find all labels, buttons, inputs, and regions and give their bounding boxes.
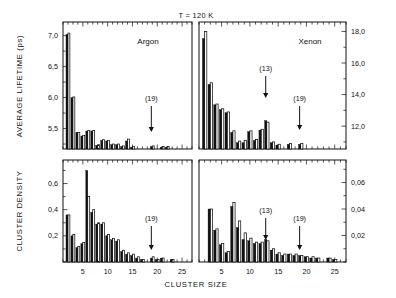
four-panel-bar-chart: 5,56,06,57,0(19)Argon12,014,016,018,0(13… bbox=[0, 0, 396, 298]
bar-filled bbox=[276, 254, 278, 262]
bar-filled bbox=[101, 224, 103, 262]
bar-open bbox=[278, 253, 280, 262]
annotation-arrow-head bbox=[263, 235, 268, 240]
bar-open bbox=[103, 223, 105, 262]
bar-open bbox=[108, 140, 110, 149]
x-tick-label-25: 25 bbox=[178, 267, 186, 276]
bar-open bbox=[93, 210, 95, 262]
bar-open bbox=[113, 144, 115, 149]
bar-open bbox=[267, 241, 269, 262]
bar-open bbox=[152, 146, 154, 149]
bar-filled bbox=[150, 147, 152, 149]
bar-filled bbox=[208, 209, 210, 262]
bar-open bbox=[83, 242, 85, 262]
bar-filled bbox=[116, 241, 118, 262]
panel-title-argon: Argon bbox=[137, 37, 158, 46]
bar-open bbox=[255, 242, 257, 262]
bar-open bbox=[142, 259, 144, 262]
bar-open bbox=[98, 223, 100, 262]
y-tick-label: 0,04 bbox=[351, 205, 365, 214]
bar-open bbox=[132, 147, 134, 149]
annotation-arrow-head bbox=[263, 93, 268, 98]
bar-filled bbox=[231, 132, 233, 149]
bar-filled bbox=[150, 258, 152, 262]
x-tick-label-15: 15 bbox=[274, 267, 282, 276]
bar-filled bbox=[293, 255, 295, 262]
bar-filled bbox=[111, 145, 113, 149]
bar-open bbox=[233, 202, 235, 262]
bar-filled bbox=[71, 98, 73, 149]
bar-filled bbox=[91, 131, 93, 149]
bar-open bbox=[335, 259, 337, 262]
y-tick-label: 0,02 bbox=[351, 231, 365, 240]
y-tick-label: 0,4 bbox=[48, 205, 58, 214]
bar-filled bbox=[219, 110, 221, 149]
bar-open bbox=[306, 257, 308, 262]
bar-filled bbox=[242, 143, 244, 149]
bar-filled bbox=[310, 258, 312, 262]
bar-filled bbox=[315, 258, 317, 262]
bar-open bbox=[227, 112, 229, 149]
bar-open bbox=[73, 97, 75, 149]
bar-filled bbox=[76, 132, 78, 149]
bar-filled bbox=[282, 255, 284, 262]
bar-open bbox=[162, 147, 164, 149]
bar-open bbox=[255, 140, 257, 149]
panel-top-right: 12,014,016,018,0(13)(19)Xenon bbox=[199, 22, 365, 149]
bar-open bbox=[261, 129, 263, 149]
bar-filled bbox=[121, 252, 123, 262]
figure-container: 5,56,06,57,0(19)Argon12,014,016,018,0(13… bbox=[0, 0, 396, 298]
bar-filled bbox=[160, 258, 162, 262]
bar-open bbox=[78, 246, 80, 262]
bar-filled bbox=[276, 145, 278, 149]
bar-open bbox=[137, 257, 139, 262]
bar-filled bbox=[219, 245, 221, 262]
bar-filled bbox=[101, 140, 103, 149]
bar-filled bbox=[304, 257, 306, 262]
y-tick-label: 14,0 bbox=[351, 90, 365, 99]
bar-filled bbox=[91, 212, 93, 262]
bar-open bbox=[88, 130, 90, 149]
bar-open bbox=[289, 254, 291, 262]
annotation-label: (13) bbox=[259, 206, 272, 215]
panel-bottom-right: 5101520250,020,040,06(13)(19) bbox=[199, 160, 365, 276]
y-tick-label: 0,2 bbox=[48, 231, 58, 240]
bar-open bbox=[117, 144, 119, 149]
bar-filled bbox=[248, 132, 250, 149]
bar-filled bbox=[135, 258, 137, 262]
panel-frame bbox=[63, 22, 192, 149]
annotation-arrow-head bbox=[297, 125, 302, 130]
bar-open bbox=[127, 253, 129, 262]
bar-open bbox=[250, 131, 252, 149]
x-tick-label-15: 15 bbox=[128, 267, 136, 276]
bar-filled bbox=[86, 131, 88, 149]
bar-open bbox=[68, 215, 70, 262]
bar-filled bbox=[160, 147, 162, 149]
bar-open bbox=[261, 242, 263, 262]
bar-filled bbox=[116, 145, 118, 149]
bar-open bbox=[93, 130, 95, 149]
bar-filled bbox=[259, 243, 261, 262]
bar-filled bbox=[71, 236, 73, 262]
bar-open bbox=[122, 250, 124, 262]
condition-label: T = 120 K bbox=[179, 11, 214, 20]
annotation-arrow-head bbox=[149, 245, 154, 250]
y-tick-label: 18,0 bbox=[351, 27, 365, 36]
bar-filled bbox=[270, 250, 272, 262]
bar-filled bbox=[96, 224, 98, 262]
bar-filled bbox=[327, 258, 329, 262]
bar-filled bbox=[225, 113, 227, 149]
bar-filled bbox=[96, 145, 98, 149]
bar-filled bbox=[214, 105, 216, 149]
bar-filled bbox=[165, 147, 167, 149]
bar-open bbox=[122, 146, 124, 149]
bar-open bbox=[272, 249, 274, 262]
bar-open bbox=[295, 254, 297, 262]
bar-open bbox=[216, 229, 218, 262]
bar-open bbox=[205, 31, 207, 149]
bar-filled bbox=[66, 215, 68, 262]
bar-filled bbox=[242, 239, 244, 262]
bar-open bbox=[278, 144, 280, 149]
annotation-13: (13) bbox=[259, 206, 272, 240]
bar-filled bbox=[253, 243, 255, 262]
